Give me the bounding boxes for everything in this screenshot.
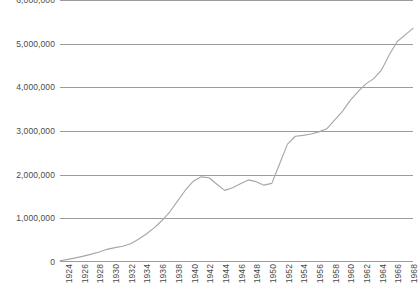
x-tick-label: 1946 (237, 264, 247, 283)
x-tick-label: 1954 (299, 264, 309, 283)
series-polyline (60, 28, 413, 260)
y-tick-label: 4,000,000 (16, 82, 55, 92)
x-tick-label: 1948 (252, 264, 262, 283)
x-tick-label: 1956 (315, 264, 325, 283)
x-tick-label: 1928 (95, 264, 105, 283)
y-tick-label: 3,000,000 (16, 126, 55, 136)
plot-area (60, 0, 413, 262)
x-tick-label: 1930 (111, 264, 121, 283)
x-tick-label: 1958 (331, 264, 341, 283)
x-tick-label: 1962 (362, 264, 372, 283)
y-tick-label: 1,000,000 (16, 213, 55, 223)
x-tick-label: 1934 (142, 264, 152, 283)
x-tick-label: 1950 (268, 264, 278, 283)
x-tick-label: 1924 (64, 264, 74, 283)
x-tick-label: 1932 (127, 264, 137, 283)
x-tick-label: 1964 (378, 264, 388, 283)
x-tick-label: 1940 (190, 264, 200, 283)
y-tick-label: 0 (50, 257, 55, 267)
y-tick-label: 5,000,000 (16, 39, 55, 49)
y-tick-label: 2,000,000 (16, 170, 55, 180)
x-tick-label: 1938 (174, 264, 184, 283)
x-tick-label: 1942 (205, 264, 215, 283)
x-tick-label: 1966 (393, 264, 403, 283)
series-line (60, 0, 413, 262)
x-tick-label: 1952 (284, 264, 294, 283)
x-tick-label: 1936 (158, 264, 168, 283)
x-tick-label: 1968 (409, 264, 419, 283)
x-tick-label: 1926 (80, 264, 90, 283)
y-axis: 01,000,0002,000,0003,000,0004,000,0005,0… (0, 0, 58, 262)
x-tick-label: 1960 (346, 264, 356, 283)
x-tick-label: 1944 (221, 264, 231, 283)
y-tick-label: 6,000,000 (16, 0, 55, 5)
x-axis: 1924192619281930193219341936193819401942… (60, 262, 413, 304)
